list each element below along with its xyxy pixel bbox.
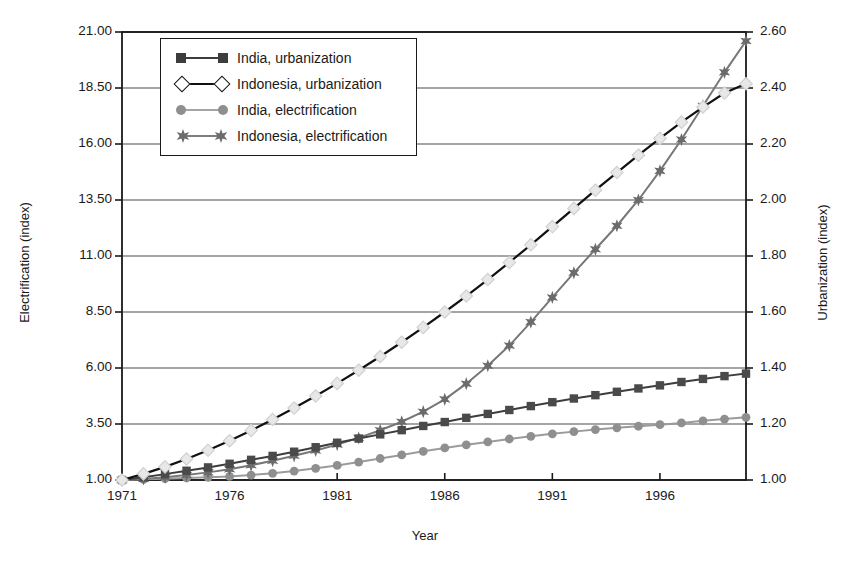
y-axis-right-tick: 1.40	[760, 359, 830, 374]
chart-plot-svg	[0, 0, 850, 567]
x-axis-tick: 1976	[195, 488, 265, 503]
legend-marker-star-icon	[175, 127, 229, 145]
legend-item-indonesia-electrification: Indonesia, electrification	[161, 123, 416, 149]
legend-marker-circle-icon	[175, 101, 229, 119]
legend-label: Indonesia, electrification	[237, 128, 387, 144]
y-axis-left-title: Electrification (index)	[17, 153, 32, 373]
y-axis-left-tick: 1.00	[42, 471, 112, 486]
y-axis-right-tick: 1.20	[760, 415, 830, 430]
legend-label: India, electrification	[237, 102, 357, 118]
chart-figure: Electrification (index) Urbanization (in…	[0, 0, 850, 567]
y-axis-right-tick: 2.60	[760, 23, 830, 38]
legend-marker-square-icon	[175, 49, 229, 67]
x-axis-tick: 1981	[302, 488, 372, 503]
chart-legend: India, urbanization Indonesia, urbanizat…	[160, 38, 417, 156]
y-axis-left-tick: 3.50	[42, 415, 112, 430]
y-axis-right-tick: 2.20	[760, 135, 830, 150]
y-axis-left-tick: 16.00	[42, 135, 112, 150]
y-axis-right-tick: 1.60	[760, 303, 830, 318]
legend-label: India, urbanization	[237, 50, 351, 66]
y-axis-left-tick: 6.00	[42, 359, 112, 374]
legend-label: Indonesia, urbanization	[237, 76, 382, 92]
legend-item-indonesia-urbanization: Indonesia, urbanization	[161, 71, 416, 97]
y-axis-right-tick: 1.00	[760, 471, 830, 486]
y-axis-left-tick: 13.50	[42, 191, 112, 206]
y-axis-right-tick: 2.40	[760, 79, 830, 94]
y-axis-right-title: Urbanization (index)	[815, 153, 830, 373]
y-axis-left-tick: 8.50	[42, 303, 112, 318]
x-axis-tick: 1996	[625, 488, 695, 503]
y-axis-right-tick: 2.00	[760, 191, 830, 206]
legend-item-india-urbanization: India, urbanization	[161, 45, 416, 71]
x-axis-tick: 1986	[410, 488, 480, 503]
x-axis-tick: 1971	[87, 488, 157, 503]
y-axis-left-tick: 11.00	[42, 247, 112, 262]
y-axis-left-tick: 18.50	[42, 79, 112, 94]
y-axis-right-tick: 1.80	[760, 247, 830, 262]
x-axis-title: Year	[0, 528, 850, 543]
legend-item-india-electrification: India, electrification	[161, 97, 416, 123]
x-axis-tick: 1991	[517, 488, 587, 503]
series-india-urbanization	[118, 369, 750, 484]
legend-marker-diamond-hollow-icon	[175, 75, 229, 93]
y-axis-left-tick: 21.00	[42, 23, 112, 38]
